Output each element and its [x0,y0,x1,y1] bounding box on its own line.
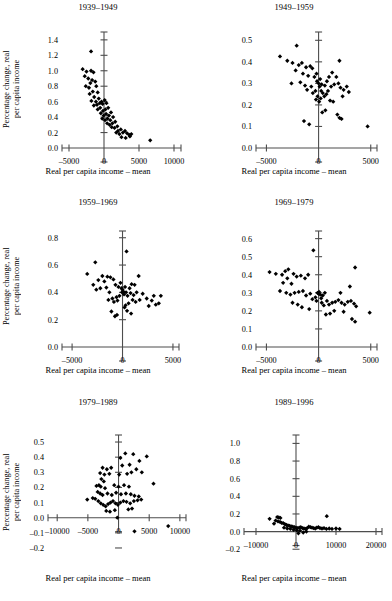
data-point [119,492,123,496]
y-tick-label: –0.1 [29,529,44,538]
x-tick-label: –5000 [58,157,79,166]
data-point [102,472,106,476]
data-point [114,491,118,495]
data-point [290,301,294,305]
data-point [306,74,310,78]
data-point [297,290,301,294]
data-point [117,472,121,476]
data-point [292,291,296,295]
data-point [130,506,134,510]
data-point [299,273,303,277]
data-point [104,285,108,289]
y-tick-label: 0.3 [242,289,252,298]
data-point [327,75,331,79]
data-point [278,54,282,58]
data-point [296,302,300,306]
data-point [297,63,301,67]
x-tick-label: –5000 [255,356,276,365]
data-point [129,470,133,474]
data-point [330,70,334,74]
data-point [334,526,338,530]
data-point [107,290,111,294]
data-point [105,491,109,495]
data-point [139,497,143,501]
data-point [127,286,131,290]
x-tick-label: 5000 [363,157,379,166]
data-point [312,75,316,79]
x-tick-label: 10000 [170,527,190,536]
data-point [288,292,292,296]
y-tick-label: 0.8 [230,457,240,466]
data-point [336,81,340,85]
plot-area: –5000050000.00.20.40.60.8 [0,195,196,373]
data-point [89,49,93,53]
plot-area: –5000050000.00.10.20.30.40.50.6 [196,195,392,373]
data-point [125,472,129,476]
data-point [85,272,89,276]
data-point [325,299,329,303]
data-point [290,61,294,65]
data-point [115,298,119,302]
data-point [151,481,155,485]
y-tick-label: 0.4 [242,271,252,280]
data-point [128,501,132,505]
data-point [307,307,311,311]
data-point [347,90,351,94]
data-point [81,67,85,71]
y-tick-label: 0.2 [230,510,240,519]
y-tick-label: 0.2 [242,101,252,110]
data-point [138,298,142,302]
data-point [303,83,307,87]
x-tick-label: 20000 [366,541,386,550]
data-point [337,527,341,531]
data-point [332,82,336,86]
y-tick-label: –0.2 [225,545,240,554]
x-axis-label: Real per capita income – mean [0,166,196,176]
data-point [100,466,104,470]
x-tick-label: –10000 [44,527,70,536]
x-axis-label: Real per capita income – mean [196,573,392,583]
data-point [147,304,151,308]
data-point [345,84,349,88]
x-tick-label: –5000 [77,527,98,536]
data-point [116,485,120,489]
data-point [85,497,89,501]
data-point [159,294,163,298]
data-point [137,274,141,278]
data-point [285,59,289,63]
data-point [125,309,129,313]
data-point [120,463,124,467]
data-point [334,75,338,79]
y-tick-label: 0.0 [48,144,58,153]
data-point [353,265,357,269]
data-point [302,119,306,123]
data-point [368,311,372,315]
data-point [123,451,127,455]
data-point [132,529,136,533]
data-point [137,459,141,463]
y-tick-label: 0.6 [242,235,252,244]
data-point [131,452,135,456]
data-point [129,492,133,496]
data-point [91,283,95,287]
data-point [86,76,90,80]
data-point [91,89,95,93]
data-point [348,284,352,288]
y-tick-label: 0.5 [242,36,252,45]
data-point [353,320,357,324]
data-point [304,293,308,297]
data-point [135,498,139,502]
x-tick-label: 10000 [164,157,184,166]
y-tick-label: 0.4 [34,453,44,462]
y-tick-label: 0.0 [34,514,44,523]
data-point [280,273,284,277]
data-point [111,115,115,119]
data-point [134,467,138,471]
y-tick-label: 1.0 [48,67,58,76]
data-point [150,298,154,302]
y-tick-label: 0.8 [48,234,58,243]
data-point [314,72,318,76]
data-point [332,309,336,313]
x-tick-label: 0 [317,356,321,365]
data-point [311,248,315,252]
